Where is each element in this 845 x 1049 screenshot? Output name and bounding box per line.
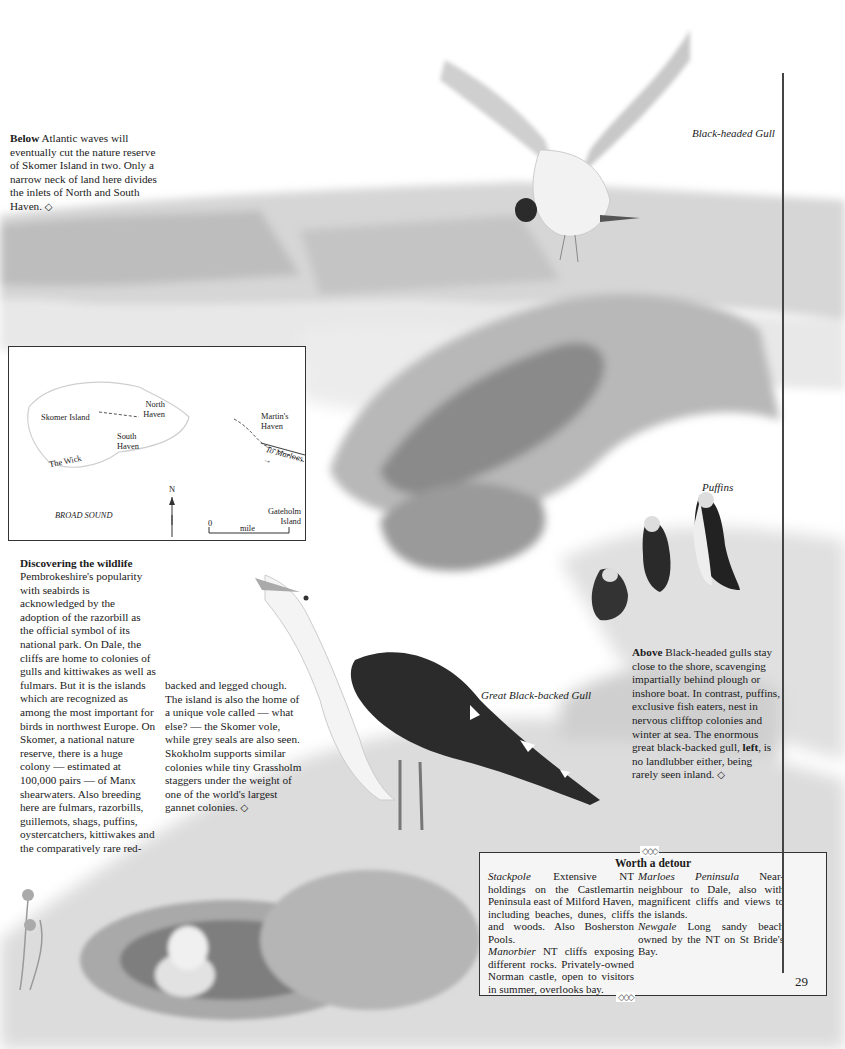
article-col-1-text: Pembrokeshire's popularity with seabirds…: [20, 570, 156, 854]
map-label-north-haven: North Haven: [135, 400, 165, 419]
ornament-top-icon: ◇◇◇: [640, 846, 659, 856]
detour-col-2: Marloes Peninsula Near-neighbour to Dale…: [638, 870, 784, 958]
map-label-martins-haven: Martin's Haven: [261, 412, 297, 431]
caption-above-text-1: Black-headed gulls stay close to the sho…: [632, 646, 780, 753]
end-mark-icon: ◇: [717, 769, 725, 780]
detour-entry-name: Manorbier: [488, 945, 536, 957]
ornament-bottom-icon: ◇◇◇: [616, 992, 635, 1002]
caption-below: Below Atlantic waves will eventually cut…: [10, 132, 162, 214]
skomer-map: Skomer Island North Haven South Haven Th…: [8, 346, 306, 541]
map-label-gateholm-island: Gateholm Island: [259, 507, 301, 526]
scale-unit: mile: [240, 524, 255, 534]
map-label-skomer-island: Skomer Island: [41, 413, 90, 423]
detour-col-1: Stackpole Extensive NT holdings on the C…: [488, 870, 634, 995]
caption-above: Above Black-headed gulls stay close to t…: [632, 646, 780, 782]
scale-zero: 0: [208, 519, 212, 529]
worth-a-detour-box: ◇◇◇ Worth a detour Stackpole Extensive N…: [479, 852, 827, 996]
end-mark-icon: ◇: [241, 802, 249, 813]
margin-rule: [782, 73, 784, 973]
map-label-broad-sound: BROAD SOUND: [55, 511, 112, 521]
map-label-south-haven: South Haven: [117, 432, 147, 451]
label-great-black-backed-gull: Great Black-backed Gull: [481, 689, 591, 701]
article-col-2-text: backed and legged chough. The island is …: [165, 679, 301, 813]
label-puffins: Puffins: [702, 481, 733, 493]
caption-below-lead: Below: [10, 132, 39, 144]
detour-title: Worth a detour: [480, 857, 826, 869]
detour-entry-name: Newgale: [638, 920, 677, 932]
end-mark-icon: ◇: [45, 201, 53, 212]
caption-above-lead: Above: [632, 646, 662, 658]
detour-entry-name: Stackpole: [488, 870, 531, 882]
detour-entry-name: Marloes Peninsula: [638, 870, 739, 882]
article-heading: Discovering the wildlife: [20, 557, 132, 571]
article-col-1: Pembrokeshire's popularity with seabirds…: [20, 570, 156, 855]
north-arrow-icon: N: [169, 485, 175, 495]
caption-above-bold-word: left: [743, 741, 759, 753]
article-col-2: backed and legged chough. The island is …: [165, 679, 302, 815]
page-number: 29: [795, 974, 808, 990]
label-black-headed-gull: Black-headed Gull: [692, 127, 775, 139]
